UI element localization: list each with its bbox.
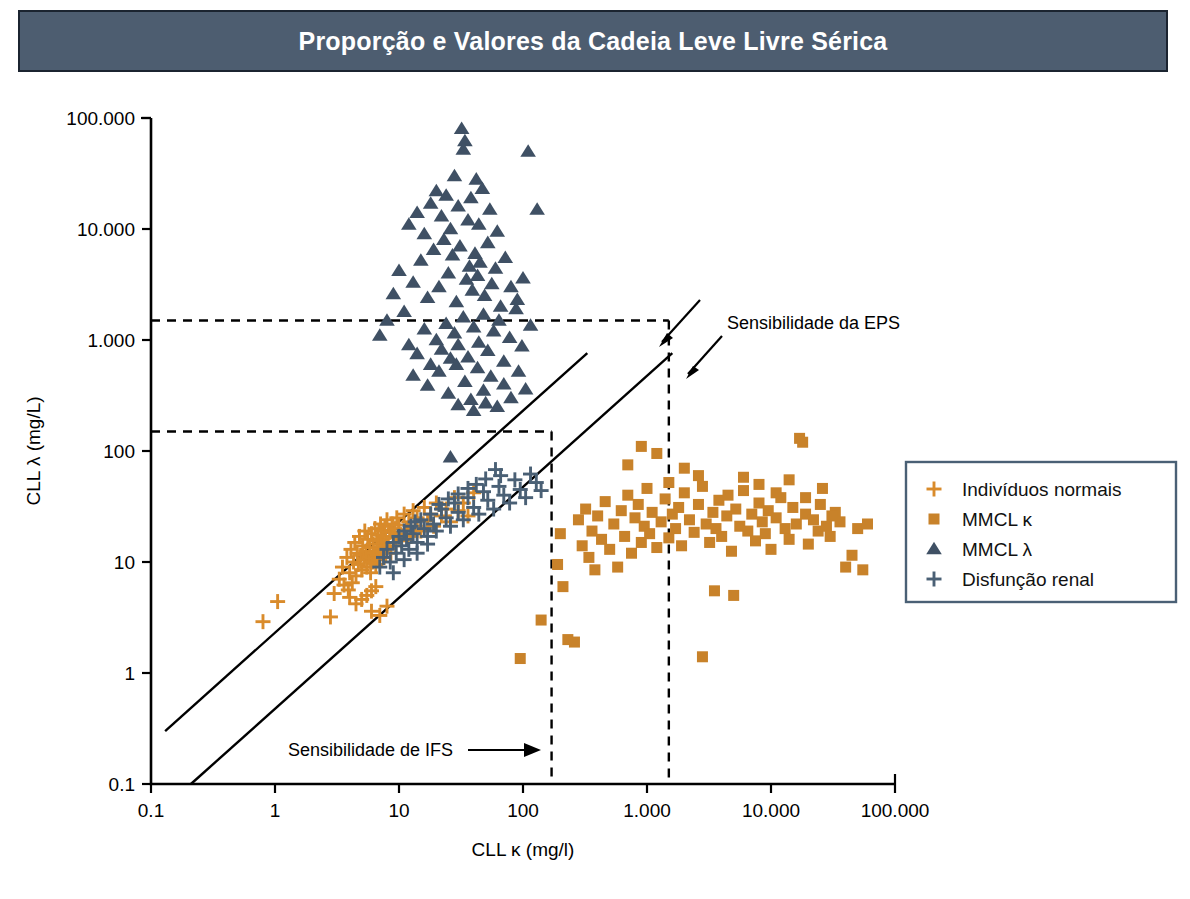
data-point-triangle: [471, 335, 487, 348]
data-point-triangle: [441, 266, 457, 279]
data-point-triangle: [452, 239, 468, 252]
data-point-triangle: [511, 364, 527, 377]
x-tick-label: 1: [270, 800, 281, 821]
data-point-square: [612, 562, 623, 573]
data-point-triangle: [460, 213, 476, 226]
data-point-triangle: [401, 338, 417, 351]
data-point-square: [821, 521, 832, 532]
data-point-triangle: [488, 261, 504, 274]
data-point-square: [791, 518, 802, 529]
data-point-square: [651, 448, 662, 459]
x-tick-label: 10.000: [742, 800, 800, 821]
data-point-triangle: [423, 357, 439, 370]
data-point-square: [753, 479, 764, 490]
y-tick-label: 1.000: [87, 330, 135, 351]
legend-item-label: MMCL λ: [962, 539, 1033, 560]
data-point-triangle: [457, 134, 473, 147]
data-point-square: [536, 615, 547, 626]
data-point-square: [784, 534, 795, 545]
data-point-square: [515, 653, 526, 664]
cropped-caption-text: [0, 884, 1190, 899]
data-point-square: [757, 516, 768, 527]
data-point-triangle: [518, 382, 534, 395]
data-point-square: [803, 539, 814, 550]
annotation-eps-arrow-head-2: [659, 333, 673, 347]
data-point-square: [619, 531, 630, 542]
data-point-triangle: [417, 227, 433, 240]
data-point-triangle: [457, 375, 473, 388]
data-point-triangle: [466, 404, 482, 417]
data-point-square: [817, 483, 828, 494]
data-point-triangle: [450, 199, 466, 212]
data-point-square: [693, 499, 704, 510]
data-point-plus: [379, 599, 394, 614]
data-point-square: [569, 637, 580, 648]
data-point-triangle: [496, 354, 512, 367]
y-tick-label: 100.000: [66, 108, 135, 129]
data-point-triangle: [503, 391, 519, 404]
data-point-square: [651, 542, 662, 553]
data-point-triangle: [396, 304, 412, 317]
data-point-square: [771, 487, 782, 498]
data-point-triangle: [493, 299, 509, 312]
data-point-square: [676, 540, 687, 551]
data-point-square: [852, 523, 863, 534]
data-point-square: [697, 651, 708, 662]
data-point-square: [552, 559, 563, 570]
data-point-triangle: [391, 264, 407, 277]
data-point-triangle: [489, 224, 505, 237]
data-point-triangle: [443, 450, 459, 463]
data-point-square: [826, 510, 837, 521]
data-point-square: [608, 518, 619, 529]
data-point-triangle: [486, 324, 502, 337]
chart-container: 0.11101001.00010.000100.0000.11101001.00…: [0, 80, 1190, 880]
data-point-square: [557, 581, 568, 592]
data-point-square: [586, 526, 597, 537]
data-point-square: [555, 528, 566, 539]
data-point-square: [862, 518, 873, 529]
data-point-square: [596, 534, 607, 545]
data-point-square: [766, 544, 777, 555]
data-point-triangle: [520, 144, 536, 157]
data-point-triangle: [470, 361, 486, 374]
data-point-square: [679, 463, 690, 474]
data-point-square: [622, 490, 633, 501]
x-tick-label: 1.000: [623, 800, 671, 821]
legend-item-label: Indivíduos normais: [962, 479, 1121, 500]
data-point-square: [660, 493, 671, 504]
data-point-triangle: [450, 398, 466, 411]
data-point-square: [583, 552, 594, 563]
data-point-square: [670, 523, 681, 534]
data-point-square: [746, 509, 757, 520]
y-tick-label: 10: [114, 552, 135, 573]
data-point-triangle: [483, 369, 499, 382]
data-point-triangle: [417, 322, 433, 335]
data-point-square: [616, 505, 627, 516]
data-point-square: [693, 470, 704, 481]
data-point-triangle: [484, 277, 500, 290]
data-point-triangle: [498, 251, 514, 264]
data-point-triangle: [447, 169, 463, 182]
data-point-square: [726, 546, 737, 557]
data-point-triangle: [476, 307, 492, 320]
data-point-square: [636, 441, 647, 452]
data-point-plus: [323, 609, 338, 624]
data-point-triangle: [515, 271, 531, 284]
data-point-triangle: [460, 350, 476, 363]
data-point-square: [787, 502, 798, 513]
data-point-square: [673, 502, 684, 513]
data-point-triangle: [443, 222, 459, 235]
data-point-square: [600, 496, 611, 507]
page-title: Proporção e Valores da Cadeia Leve Livre…: [299, 27, 888, 56]
data-point-square: [656, 516, 667, 527]
data-point-triangle: [510, 293, 526, 306]
data-point-square: [728, 590, 739, 601]
data-point-triangle: [405, 368, 421, 381]
data-point-plus: [420, 537, 435, 552]
data-point-triangle: [450, 338, 466, 351]
data-point-triangle: [502, 330, 518, 343]
data-point-square: [738, 485, 749, 496]
x-tick-label: 10: [388, 800, 409, 821]
data-point-triangle: [441, 386, 457, 399]
data-point-square: [808, 514, 819, 525]
